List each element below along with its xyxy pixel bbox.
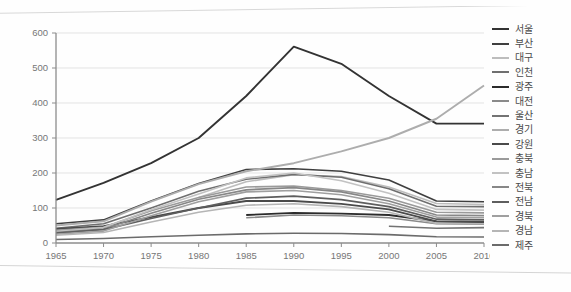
legend-item-5[interactable]: 대전 — [492, 94, 568, 108]
gridlines — [56, 33, 484, 208]
x-tick-label: 1990 — [283, 250, 304, 261]
legend-item-label: 서울 — [515, 24, 533, 35]
chart-legend: 서울부산대구인천광주대전울산경기강원충북충남전북전남경북경남제주 — [492, 22, 568, 252]
legend-line-swatch — [492, 57, 509, 59]
x-tick-label: 1965 — [45, 250, 66, 261]
x-tick-label: 1970 — [93, 250, 114, 261]
legend-item-label: 광주 — [515, 81, 533, 92]
legend-item-label: 충남 — [515, 168, 533, 179]
legend-item-7[interactable]: 경기 — [492, 123, 568, 137]
legend-line-swatch — [492, 244, 509, 246]
x-tick-label: 2010 — [473, 250, 490, 261]
series-line-15 — [56, 233, 484, 239]
legend-item-label: 울산 — [515, 110, 533, 121]
series-line-14 — [56, 204, 484, 236]
legend-line-swatch — [492, 172, 509, 174]
legend-line-swatch — [492, 100, 509, 102]
x-tick-label: 2005 — [426, 250, 447, 261]
data-series-group — [56, 47, 484, 240]
y-tick-label: 300 — [32, 132, 48, 143]
legend-line-swatch — [492, 201, 509, 203]
legend-line-swatch — [492, 143, 509, 145]
legend-item-14[interactable]: 경남 — [492, 223, 568, 237]
legend-item-0[interactable]: 서울 — [492, 22, 568, 36]
legend-line-swatch — [492, 230, 509, 232]
legend-item-label: 대구 — [515, 52, 533, 63]
legend-line-swatch — [492, 43, 509, 45]
scanned-page: 0100200300400500600 19651970197519801985… — [0, 0, 571, 292]
legend-item-label: 부산 — [515, 38, 533, 49]
y-tick-label: 600 — [32, 27, 48, 38]
y-tick-label: 0 — [43, 237, 48, 248]
chart-plot-svg: 0100200300400500600 19651970197519801985… — [0, 0, 490, 278]
legend-item-label: 경남 — [515, 225, 533, 236]
legend-item-12[interactable]: 전남 — [492, 195, 568, 209]
line-chart: 0100200300400500600 19651970197519801985… — [0, 0, 490, 278]
y-tick-label: 500 — [32, 62, 48, 73]
legend-item-label: 강원 — [515, 139, 533, 150]
legend-item-label: 전북 — [515, 182, 533, 193]
legend-item-label: 경북 — [515, 211, 533, 222]
x-tick-label: 2000 — [378, 250, 399, 261]
legend-line-swatch — [492, 158, 509, 160]
legend-item-3[interactable]: 인천 — [492, 65, 568, 79]
legend-item-15[interactable]: 제주 — [492, 238, 568, 252]
legend-item-10[interactable]: 충남 — [492, 166, 568, 180]
legend-item-13[interactable]: 경북 — [492, 209, 568, 223]
x-tick-label: 1995 — [331, 250, 352, 261]
legend-item-label: 충북 — [515, 153, 533, 164]
series-line-6 — [389, 226, 484, 228]
x-tick-label: 1985 — [236, 250, 257, 261]
legend-line-swatch — [492, 186, 509, 188]
legend-item-6[interactable]: 울산 — [492, 108, 568, 122]
legend-line-swatch — [492, 129, 509, 131]
legend-item-label: 인천 — [515, 67, 533, 78]
legend-item-8[interactable]: 강원 — [492, 137, 568, 151]
y-tick-label: 200 — [32, 167, 48, 178]
y-axis-tick-labels: 0100200300400500600 — [32, 27, 48, 248]
legend-item-1[interactable]: 부산 — [492, 36, 568, 50]
legend-line-swatch — [492, 86, 509, 88]
y-tick-label: 400 — [32, 97, 48, 108]
legend-line-swatch — [492, 115, 509, 117]
legend-item-4[interactable]: 광주 — [492, 80, 568, 94]
legend-line-swatch — [492, 28, 509, 30]
legend-item-label: 대전 — [515, 96, 533, 107]
legend-line-swatch — [492, 71, 509, 73]
x-tick-label: 1980 — [188, 250, 209, 261]
x-tick-label: 1975 — [141, 250, 162, 261]
legend-line-swatch — [492, 215, 509, 217]
legend-item-label: 경기 — [515, 124, 533, 135]
legend-item-label: 전남 — [515, 196, 533, 207]
legend-item-2[interactable]: 대구 — [492, 51, 568, 65]
legend-item-label: 제주 — [515, 240, 533, 251]
x-axis-tick-labels: 1965197019751980198519901995200020052010 — [45, 250, 490, 261]
legend-item-9[interactable]: 충북 — [492, 152, 568, 166]
y-tick-label: 100 — [32, 202, 48, 213]
legend-item-11[interactable]: 전북 — [492, 180, 568, 194]
